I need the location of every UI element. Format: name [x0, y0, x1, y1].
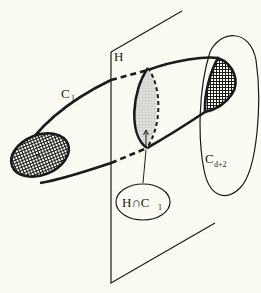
star-mark: * [36, 152, 41, 162]
intersection-callout: H∩C 1 [116, 150, 170, 220]
diagram-canvas: * H∩C 1 H C 1 C d+2 [0, 0, 261, 293]
intersection-region [134, 68, 158, 148]
plane-h [111, 11, 215, 283]
plane-label: H [114, 49, 123, 64]
cd2-subscript: d+2 [214, 160, 227, 169]
cd2-label: C [205, 151, 214, 166]
right-hatched-region [205, 58, 236, 112]
callout-label: H∩C [122, 195, 149, 210]
left-hatched-region: * [5, 125, 76, 185]
c1-label: C [61, 86, 70, 101]
c1-subscript: 1 [71, 94, 75, 103]
callout-subscript: 1 [158, 203, 162, 212]
curve-cd2 [200, 36, 259, 196]
